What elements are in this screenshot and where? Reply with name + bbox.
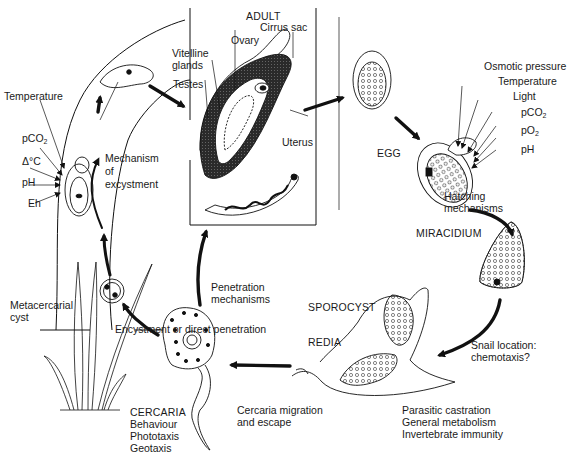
label-hatch-light: Light — [513, 90, 536, 102]
arrow-cyst-to-gut — [104, 236, 110, 275]
juvenile-fluke — [100, 65, 153, 88]
label-general-metabolism: General metabolism — [402, 416, 496, 428]
label-excyst-temperature: Temperature — [4, 90, 63, 102]
label-geotaxis: Geotaxis — [130, 442, 171, 454]
arrow-to-juvenile — [98, 98, 100, 112]
egg-drawing — [353, 51, 391, 109]
label-sporocyst: SPOROCYST — [308, 301, 376, 313]
label-vitelline-glands: Vitelline glands — [172, 47, 209, 71]
label-hatch-osmotic-pressure: Osmotic pressure — [484, 60, 566, 72]
label-encystment-or-penetration: Encystment or direct penetration — [115, 323, 266, 335]
label-hatch-po2: pO2 — [521, 124, 539, 140]
label-miracidium: MIRACIDIUM — [416, 227, 482, 239]
label-invertebrate-immunity: Invertebrate immunity — [402, 428, 503, 440]
adult-fluke — [200, 29, 291, 178]
life-cycle-diagram: ADULT EGG MIRACIDIUM SPOROCYST REDIA CER… — [0, 0, 582, 466]
miracidium-drawing — [480, 222, 525, 288]
label-cirrus-sac: Cirrus sac — [260, 21, 307, 33]
adult-worm-in-lumen — [205, 174, 298, 215]
label-excyst-pco2: pCO2 — [22, 132, 48, 148]
metacercarial-cyst-drawing — [100, 279, 124, 303]
label-egg: EGG — [377, 147, 401, 159]
label-testes: Testes — [173, 78, 203, 90]
label-hatch-ph: pH — [521, 143, 534, 155]
arrow-adult-to-egg — [305, 98, 342, 110]
label-snail-location: Snail location: chemotaxis? — [471, 339, 536, 363]
excysting-metacercaria — [65, 157, 93, 216]
label-hatch-pco2: pCO2 — [521, 106, 547, 122]
label-phototaxis: Phototaxis — [130, 430, 179, 442]
label-uterus: Uterus — [282, 136, 313, 148]
label-excyst-eh: Eh — [28, 197, 41, 209]
label-parasitic-castration: Parasitic castration — [402, 404, 491, 416]
label-penetration-mechanisms: Penetration mechanisms — [211, 281, 270, 305]
label-excyst-delta-temp: Δ°C — [22, 155, 41, 167]
arrow-cercaria-to-host — [198, 232, 206, 305]
label-mechanism-of-excystment: Mechanism of excystment — [105, 152, 159, 191]
label-hatching-mechanisms: Hatching mechanisms — [444, 190, 503, 214]
label-redia: REDIA — [308, 336, 341, 348]
arrow-snail-to-cercaria — [232, 365, 290, 366]
label-cercaria-migration: Cercaria migration and escape — [237, 404, 323, 428]
label-ovary: Ovary — [231, 34, 259, 46]
label-hatch-temperature: Temperature — [498, 75, 557, 87]
label-cercaria: CERCARIA — [130, 406, 186, 418]
plant-drawing — [44, 262, 152, 410]
label-excyst-ph: pH — [22, 176, 35, 188]
label-metacercarial-cyst: Metacercarial cyst — [10, 299, 73, 323]
label-behaviour: Behaviour — [130, 418, 177, 430]
arrow-egg-to-hatching — [396, 118, 418, 138]
